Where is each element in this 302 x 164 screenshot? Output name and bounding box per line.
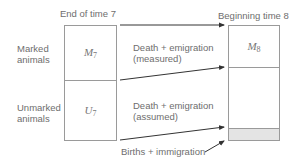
arrow-births-immigration	[205, 141, 224, 152]
arrow-unmarked-carryover	[120, 127, 224, 140]
flow-arrows	[0, 0, 302, 164]
arrow-marked-to-unmarked-boundary	[120, 67, 224, 80]
